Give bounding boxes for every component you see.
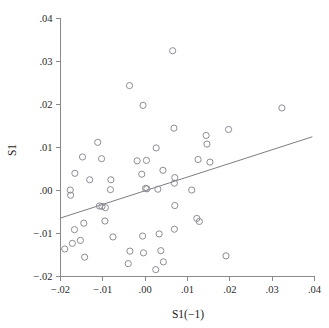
x-axis-ticks: −.02−.01.00.01.02.03.04	[51, 277, 322, 295]
scatter-point	[279, 105, 285, 111]
scatter-point	[79, 154, 85, 160]
scatter-point	[207, 159, 213, 165]
y-axis-title: S1	[6, 144, 18, 156]
y-tick-label: .01	[39, 142, 52, 153]
plot-canvas: −.02−.01.00.01.02.03.04 −.02−.01.00.01.0…	[0, 0, 329, 328]
x-tick-label: −.02	[51, 284, 70, 295]
scatter-point	[204, 141, 210, 147]
scatter-point	[225, 126, 231, 132]
scatter-point	[140, 250, 146, 256]
y-tick-label: .04	[39, 13, 53, 24]
scatter-point	[156, 231, 162, 237]
x-tick-label: .01	[181, 284, 194, 295]
x-axis-title: S1(−1)	[172, 308, 204, 321]
x-tick-label: .02	[223, 284, 236, 295]
scatter-point	[87, 177, 93, 183]
axes	[61, 19, 315, 277]
scatter-point	[108, 177, 114, 183]
scatter-point	[62, 246, 68, 252]
scatter-point	[172, 202, 178, 208]
scatter-point	[203, 132, 209, 138]
scatter-point	[171, 226, 177, 232]
scatter-point	[126, 82, 132, 88]
scatter-point	[77, 237, 83, 243]
scatter-point	[81, 220, 87, 226]
scatter-point	[153, 267, 159, 273]
scatter-point	[158, 248, 164, 254]
scatter-point	[110, 234, 116, 240]
y-tick-label: −.01	[33, 228, 52, 239]
scatter-point	[127, 248, 133, 254]
x-tick-label: −.01	[93, 284, 112, 295]
scatter-point	[171, 125, 177, 131]
scatter-point	[125, 261, 131, 267]
scatter-point	[140, 102, 146, 108]
y-tick-label: .02	[39, 99, 52, 110]
scatter-point	[82, 254, 88, 260]
scatter-point	[139, 171, 145, 177]
scatter-point	[189, 187, 195, 193]
regression-line	[61, 137, 313, 218]
x-tick-label: .00	[139, 284, 152, 295]
scatter-point	[102, 218, 108, 224]
y-tick-label: −.02	[33, 271, 52, 282]
scatter-point	[143, 157, 149, 163]
scatter-point	[160, 167, 166, 173]
scatter-plot-figure: −.02−.01.00.01.02.03.04 −.02−.01.00.01.0…	[0, 0, 329, 328]
scatter-point	[95, 139, 101, 145]
scatter-point	[98, 156, 104, 162]
scatter-point	[140, 233, 146, 239]
scatter-point	[134, 158, 140, 164]
scatter-point	[72, 170, 78, 176]
y-axis-ticks: −.02−.01.00.01.02.03.04	[33, 13, 60, 282]
y-tick-label: .03	[39, 56, 52, 67]
scatter-point	[107, 187, 113, 193]
scatter-point	[223, 253, 229, 259]
regression-line-segment	[61, 137, 313, 218]
scatter-point	[71, 227, 77, 233]
scatter-point	[195, 156, 201, 162]
scatter-point	[153, 145, 159, 151]
scatter-point	[170, 48, 176, 54]
x-tick-label: .04	[308, 284, 322, 295]
scatter-point	[160, 259, 166, 265]
x-tick-label: .03	[266, 284, 279, 295]
y-tick-label: .00	[39, 185, 52, 196]
scatter-point	[69, 240, 75, 246]
data-points	[62, 48, 285, 273]
